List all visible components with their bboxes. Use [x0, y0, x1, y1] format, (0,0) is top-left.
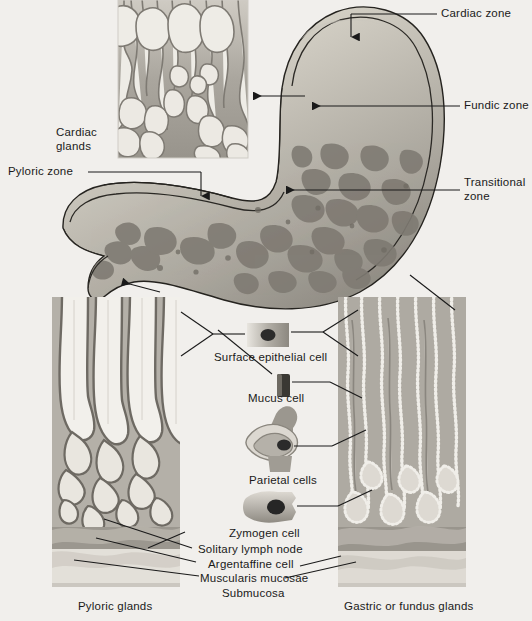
surface-epithelial-cell-illustration	[247, 323, 289, 347]
label-gastric-or-fundus-glands: Gastric or fundus glands	[344, 600, 473, 613]
label-submucosa: Submucosa	[222, 587, 285, 600]
label-transitional-zone-line1: Transitional	[464, 176, 525, 189]
label-transitional-zone-line2: zone	[464, 190, 490, 203]
label-cardiac-glands-line2: glands	[56, 140, 91, 153]
label-zymogen-cell: Zymogen cell	[229, 527, 300, 540]
zymogen-cell-illustration	[243, 491, 296, 523]
label-pyloric-zone: Pyloric zone	[8, 165, 73, 178]
label-mucus-cell: Mucus cell	[248, 392, 304, 405]
label-fundic-zone: Fundic zone	[464, 99, 529, 112]
fundus-glands-panel	[338, 290, 466, 587]
label-parietal-cells: Parietal cells	[249, 474, 317, 487]
parietal-cells-illustration	[246, 406, 298, 472]
cardiac-glands-inset	[108, 0, 250, 162]
label-muscularis-mucosae: Muscularis mucosae	[200, 572, 308, 585]
label-argentaffine-cell: Argentaffine cell	[208, 558, 294, 571]
label-cardiac-glands-line1: Cardiac	[56, 126, 97, 139]
leader-stomach-to-pyloric-panel	[122, 282, 160, 292]
label-solitary-lymph-node: Solitary lymph node	[198, 543, 303, 556]
label-cardiac-zone: Cardiac zone	[441, 7, 511, 20]
label-surface-epithelial-cell: Surface epithelial cell	[214, 351, 327, 364]
label-pyloric-glands: Pyloric glands	[78, 600, 152, 613]
